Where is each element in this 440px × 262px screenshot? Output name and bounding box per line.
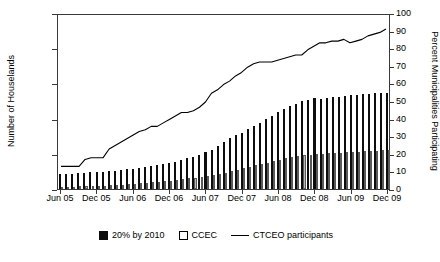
legend-item[interactable]: CCEC	[179, 230, 218, 240]
legend-item[interactable]: 20% by 2010	[99, 230, 165, 240]
bar-20pct-by-2010	[362, 94, 364, 189]
bar-ccec	[273, 161, 275, 189]
bar-ccec	[219, 174, 221, 189]
legend-line-icon	[231, 235, 249, 236]
bar-20pct-by-2010	[380, 93, 382, 189]
x-axis-tick-label: Dec 09	[373, 193, 402, 203]
bar-ccec	[188, 178, 190, 189]
bar-20pct-by-2010	[332, 97, 334, 189]
x-axis-tick-label: Jun 09	[337, 193, 364, 203]
y-axis-right-tick-label: 10	[396, 166, 426, 176]
bar-20pct-by-2010	[277, 112, 279, 189]
bar-20pct-by-2010	[89, 172, 91, 189]
bar-ccec	[237, 170, 239, 189]
bar-ccec	[388, 150, 390, 189]
bar-20pct-by-2010	[150, 166, 152, 189]
bar-ccec	[170, 181, 172, 189]
bar-20pct-by-2010	[71, 174, 73, 189]
bar-20pct-by-2010	[241, 133, 243, 189]
bar-20pct-by-2010	[313, 98, 315, 189]
bar-20pct-by-2010	[168, 163, 170, 189]
x-axis-tick-mark	[314, 190, 315, 194]
bar-20pct-by-2010	[356, 95, 358, 189]
bar-20pct-by-2010	[186, 158, 188, 189]
bar-ccec	[92, 186, 94, 189]
x-axis-tick-label: Jun 07	[192, 193, 219, 203]
bar-20pct-by-2010	[132, 169, 134, 189]
bar-20pct-by-2010	[289, 106, 291, 189]
bar-ccec	[279, 160, 281, 189]
bar-20pct-by-2010	[326, 98, 328, 189]
bar-ccec	[122, 185, 124, 189]
bar-20pct-by-2010	[120, 170, 122, 189]
bar-20pct-by-2010	[65, 174, 67, 189]
bar-20pct-by-2010	[235, 135, 237, 189]
y-axis-right-tick-label: 40	[396, 114, 426, 124]
bar-20pct-by-2010	[96, 172, 98, 189]
y-axis-right-tick-label: 60	[396, 78, 426, 88]
chart-legend: 20% by 2010CCECCTCEO participants	[0, 230, 432, 240]
bar-20pct-by-2010	[192, 157, 194, 189]
bar-ccec	[267, 163, 269, 189]
bar-20pct-by-2010	[247, 129, 249, 189]
x-axis-tick-mark	[96, 190, 97, 194]
bar-20pct-by-2010	[271, 116, 273, 189]
bar-ccec	[194, 178, 196, 189]
bar-ccec	[110, 185, 112, 189]
y-axis-right-tick-label: 100	[396, 8, 426, 18]
bar-ccec	[98, 186, 100, 189]
bar-20pct-by-2010	[368, 94, 370, 189]
bar-ccec	[322, 154, 324, 189]
legend-item-label: CCEC	[192, 230, 218, 240]
bar-ccec	[104, 186, 106, 189]
bar-ccec	[61, 187, 63, 189]
x-axis-tick-label: Jun 06	[119, 193, 146, 203]
x-axis-tick-label: Dec 07	[227, 193, 256, 203]
x-axis-tick-label: Dec 08	[300, 193, 329, 203]
bar-20pct-by-2010	[259, 123, 261, 189]
x-axis-tick-mark	[351, 190, 352, 194]
plot-inner	[58, 15, 389, 189]
bar-ccec	[285, 158, 287, 189]
bar-ccec	[176, 180, 178, 189]
bar-20pct-by-2010	[265, 119, 267, 189]
bar-20pct-by-2010	[223, 142, 225, 189]
x-axis-tick-label: Dec 06	[155, 193, 184, 203]
x-axis-tick-mark	[205, 190, 206, 194]
y-axis-right-tick-label: 90	[396, 26, 426, 36]
bar-20pct-by-2010	[180, 160, 182, 189]
bar-20pct-by-2010	[138, 168, 140, 189]
bar-ccec	[231, 171, 233, 189]
bar-ccec	[140, 183, 142, 189]
bar-20pct-by-2010	[320, 99, 322, 189]
bar-20pct-by-2010	[108, 171, 110, 189]
x-axis-tick-mark	[169, 190, 170, 194]
bar-20pct-by-2010	[156, 165, 158, 189]
bar-ccec	[116, 185, 118, 189]
x-axis-tick-mark	[387, 190, 388, 194]
bar-20pct-by-2010	[295, 104, 297, 189]
y-axis-right-title: Percent Municipalities Participating	[430, 16, 440, 186]
y-axis-right-tick-label: 70	[396, 61, 426, 71]
bar-ccec	[316, 154, 318, 189]
x-axis-tick-mark	[60, 190, 61, 194]
x-axis-tick-mark	[133, 190, 134, 194]
bar-20pct-by-2010	[211, 150, 213, 189]
legend-open-square-icon	[179, 231, 188, 240]
bar-ccec	[303, 155, 305, 189]
bar-ccec	[255, 165, 257, 189]
bar-20pct-by-2010	[102, 172, 104, 189]
bar-ccec	[382, 150, 384, 189]
x-axis-tick-label: Jun 05	[47, 193, 74, 203]
bar-ccec	[297, 156, 299, 189]
y-axis-left-title: Number of Houselands	[6, 36, 16, 166]
legend-item[interactable]: CTCEO participants	[231, 230, 333, 240]
bar-ccec	[225, 173, 227, 189]
bar-ccec	[334, 153, 336, 189]
bar-20pct-by-2010	[204, 152, 206, 189]
y-axis-right-tick-label: 30	[396, 131, 426, 141]
bar-ccec	[201, 177, 203, 189]
bar-ccec	[364, 151, 366, 189]
bar-20pct-by-2010	[386, 93, 388, 189]
